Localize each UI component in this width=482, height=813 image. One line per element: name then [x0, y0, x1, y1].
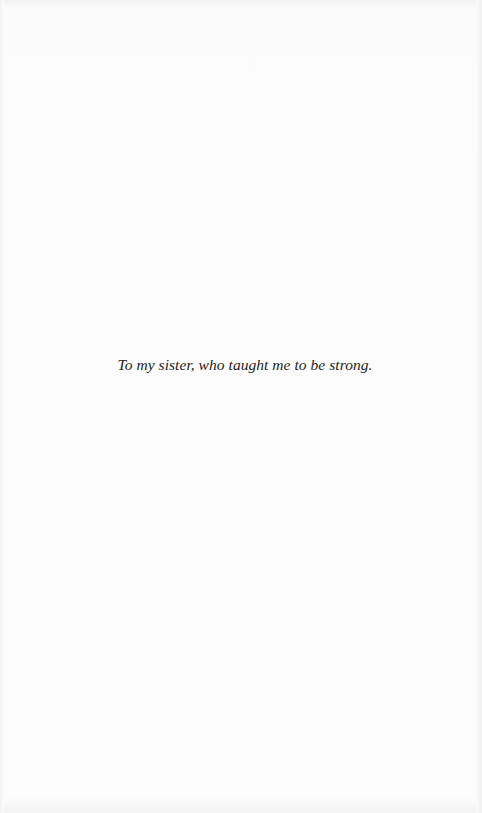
book-page: To my sister, who taught me to be strong…: [0, 0, 482, 813]
page-edge-left: [0, 0, 4, 813]
page-edge-right: [476, 0, 482, 813]
dedication-text: To my sister, who taught me to be strong…: [0, 356, 482, 374]
